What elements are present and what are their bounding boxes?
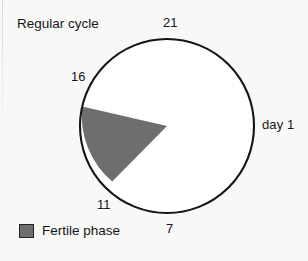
legend-swatch-fertile-phase (19, 224, 34, 238)
axis-label-day-1: day 1 (262, 118, 294, 132)
legend-label-fertile-phase: Fertile phase (42, 223, 120, 238)
legend: Fertile phase (19, 223, 120, 238)
cycle-diagram-figure: Regular cycle 21 16 11 7 day 1 Fertile p… (0, 0, 308, 261)
axis-label-day-16: 16 (71, 70, 86, 84)
axis-label-day-21: 21 (163, 16, 178, 30)
axis-label-day-7: 7 (166, 222, 173, 236)
axis-label-day-11: 11 (97, 198, 111, 212)
